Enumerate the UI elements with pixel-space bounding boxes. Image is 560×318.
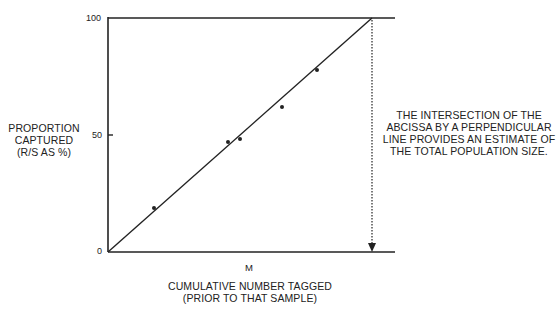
data-point [226, 140, 230, 144]
arrow-down-icon [368, 243, 376, 252]
annotation-line: ABCISSA BY A PERPENDICULAR [378, 121, 560, 133]
annotation-line: LINE PROVIDES AN ESTIMATE OF [378, 133, 560, 145]
x-axis-label-line: CUMULATIVE NUMBER TAGGED [150, 280, 350, 292]
y-axis-label-line: (R/S AS %) [4, 146, 84, 158]
annotation-text: THE INTERSECTION OF THE ABCISSA BY A PER… [378, 109, 560, 157]
y-tick-0: 0 [97, 246, 102, 256]
data-point [280, 105, 284, 109]
y-axis-label-line: CAPTURED [4, 134, 84, 146]
y-axis-label: PROPORTION CAPTURED (R/S AS %) [4, 122, 84, 158]
x-marker-m: M [245, 262, 253, 273]
chart-plot [0, 0, 560, 318]
x-axis-label: CUMULATIVE NUMBER TAGGED (PRIOR TO THAT … [150, 280, 350, 304]
regression-line [108, 18, 372, 252]
data-point [315, 68, 319, 72]
annotation-line: THE TOTAL POPULATION SIZE. [378, 145, 560, 157]
x-axis-label-line: (PRIOR TO THAT SAMPLE) [150, 292, 350, 304]
annotation-line: THE INTERSECTION OF THE [378, 109, 560, 121]
y-axis-label-line: PROPORTION [4, 122, 84, 134]
y-tick-100: 100 [86, 13, 101, 23]
data-point [238, 137, 242, 141]
y-tick-50: 50 [92, 130, 102, 140]
data-point [152, 206, 156, 210]
